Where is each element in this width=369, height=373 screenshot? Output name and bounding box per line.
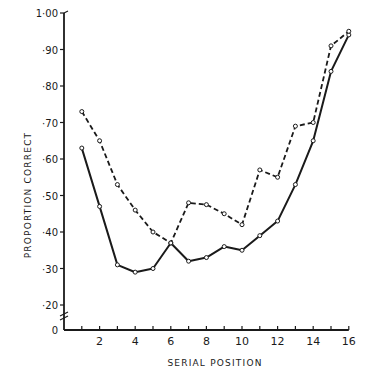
- data-series: [80, 29, 351, 274]
- x-tick-label: 2: [96, 335, 103, 348]
- x-tick-label: 14: [306, 335, 320, 348]
- x-tick-labels: 246810121416: [96, 335, 356, 348]
- x-tick-label: 8: [203, 335, 210, 348]
- data-point-marker: [222, 245, 226, 249]
- solid-line: [82, 35, 349, 272]
- x-axis-title: SERIAL POSITION: [167, 358, 262, 368]
- data-point-marker: [98, 204, 102, 208]
- data-point-marker: [204, 203, 208, 207]
- data-point-marker: [258, 168, 262, 172]
- data-point-marker: [222, 212, 226, 216]
- y-tick-label: 0: [52, 325, 58, 336]
- y-tick-label: ·70: [42, 118, 58, 129]
- dashed-line: [82, 31, 349, 243]
- data-point-marker: [293, 124, 297, 128]
- data-point-marker: [98, 139, 102, 143]
- data-point-marker: [115, 183, 119, 187]
- axes: [60, 11, 349, 330]
- data-point-marker: [240, 223, 244, 227]
- y-tick-label: ·60: [42, 154, 58, 165]
- data-point-marker: [311, 139, 315, 143]
- y-axis-title: PROPORTION CORRECT: [23, 132, 33, 259]
- data-point-marker: [293, 183, 297, 187]
- series-dashed: [80, 29, 351, 245]
- x-tick-label: 16: [342, 335, 356, 348]
- data-point-marker: [115, 263, 119, 267]
- data-point-marker: [133, 208, 137, 212]
- data-point-marker: [276, 175, 280, 179]
- data-point-marker: [329, 69, 333, 73]
- x-tick-label: 6: [167, 335, 174, 348]
- data-point-marker: [240, 248, 244, 252]
- x-tick-label: 10: [235, 335, 249, 348]
- series-solid: [80, 33, 351, 274]
- data-point-marker: [276, 219, 280, 223]
- data-point-marker: [187, 201, 191, 205]
- data-point-marker: [80, 110, 84, 114]
- y-tick-label: 1·00: [36, 8, 58, 19]
- line-chart: 0·20·30·40·50·60·70·80·901·00 2468101214…: [0, 0, 369, 373]
- data-point-marker: [151, 230, 155, 234]
- data-point-marker: [347, 29, 351, 33]
- data-point-marker: [258, 234, 262, 238]
- data-point-marker: [133, 270, 137, 274]
- data-point-marker: [204, 256, 208, 260]
- y-tick-label: ·40: [42, 227, 58, 238]
- data-point-marker: [329, 44, 333, 48]
- y-tick-label: ·90: [42, 45, 58, 56]
- data-point-marker: [311, 121, 315, 125]
- y-axis-cap: [64, 11, 68, 13]
- y-tick-label: ·50: [42, 191, 58, 202]
- x-tick-label: 4: [132, 335, 139, 348]
- data-point-marker: [151, 267, 155, 271]
- y-tick-labels: 0·20·30·40·50·60·70·80·901·00: [36, 8, 58, 336]
- data-point-marker: [187, 259, 191, 263]
- y-tick-label: ·30: [42, 264, 58, 275]
- x-tick-label: 12: [271, 335, 285, 348]
- y-tick-label: ·80: [42, 81, 58, 92]
- data-point-marker: [80, 146, 84, 150]
- data-point-marker: [169, 241, 173, 245]
- y-tick-label: ·20: [42, 300, 58, 311]
